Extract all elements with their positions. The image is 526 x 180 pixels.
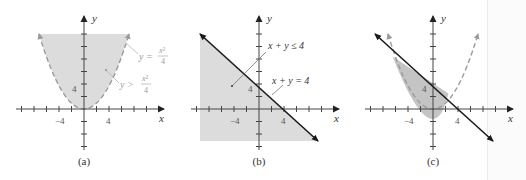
y-axis-label: y xyxy=(91,12,97,24)
tick-label-y-4: 4 xyxy=(72,84,77,94)
tick-label-x-4: 4 xyxy=(281,116,286,126)
region-inequality-denominator: 4 xyxy=(144,86,148,95)
x-axis-label: x xyxy=(333,112,339,124)
x-axis-label: x xyxy=(507,112,513,124)
tick-label-x-4: 4 xyxy=(106,116,111,126)
leader-line-label xyxy=(272,85,283,95)
boundary-line-x-plus-y-eq-4 xyxy=(375,34,493,141)
region-inequality-label: x + y ≤ 4 xyxy=(267,40,304,51)
region-point-marker xyxy=(105,69,107,71)
tick-label-x-4: 4 xyxy=(455,116,460,126)
y-axis-label: y xyxy=(440,12,446,24)
tick-label-y-4: 4 xyxy=(248,84,253,94)
curve-equation-denominator: 4 xyxy=(161,57,165,66)
region-inequality-numerator: x² xyxy=(141,74,149,83)
panel-b: y x −4 4 4 x + y ≤ 4 x + y = 4 xyxy=(191,12,339,150)
y-axis-label: y xyxy=(266,12,272,24)
x-axis-label: x xyxy=(158,112,164,124)
tick-label-y-4: 4 xyxy=(422,84,427,94)
panel-c: y x −4 4 4 xyxy=(365,12,513,150)
region-point-marker xyxy=(231,85,233,87)
curve-equation-label: y = xyxy=(138,51,153,62)
panel-b-caption: (b) xyxy=(239,155,279,167)
line-equation-label: x + y = 4 xyxy=(271,75,309,86)
tick-label-x-neg4: −4 xyxy=(55,116,65,126)
region-inequality-label: y > xyxy=(119,79,134,90)
curve-equation-numerator: x² xyxy=(158,46,166,55)
tick-label-x-neg4: −4 xyxy=(230,116,240,126)
panel-a-caption: (a) xyxy=(64,155,104,167)
leader-curve-label xyxy=(127,44,138,54)
panel-c-caption: (c) xyxy=(413,155,453,167)
tick-label-x-neg4: −4 xyxy=(404,116,414,126)
panel-a: y x −4 4 4 y = x² 4 y > x² 4 xyxy=(16,12,168,150)
